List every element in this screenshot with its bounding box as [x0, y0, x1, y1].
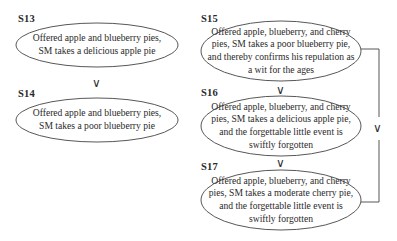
bracket-connector — [0, 0, 397, 241]
relation-symbol-s15-s17: ∨ — [373, 122, 382, 134]
